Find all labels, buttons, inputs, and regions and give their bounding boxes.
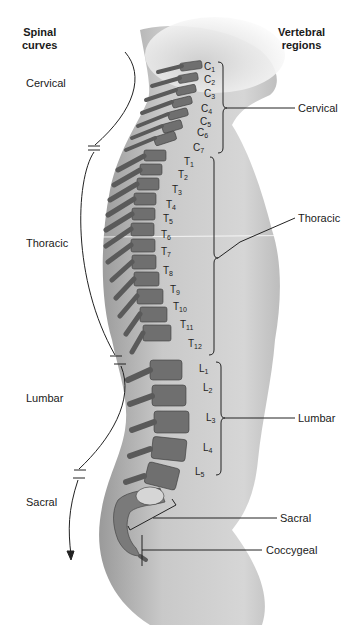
header-vertebral-regions: Vertebral regions — [278, 26, 325, 52]
vertebra-label-t11: T11 — [180, 320, 193, 333]
vertebra-label-l5: L5 — [195, 467, 204, 480]
curve-label-lumbar: Lumbar — [26, 392, 63, 405]
curve-label-cervical: Cervical — [26, 77, 66, 90]
spine-illustration — [0, 0, 355, 638]
curve-label-thoracic: Thoracic — [26, 237, 68, 250]
region-label-sacral: Sacral — [280, 512, 311, 525]
vertebra-label-t7: T7 — [161, 247, 171, 260]
region-label-cervical: Cervical — [298, 102, 338, 115]
region-label-thoracic: Thoracic — [298, 212, 340, 225]
vertebra-label-l3: L3 — [206, 413, 215, 426]
vertebra-label-t9: T9 — [170, 285, 180, 298]
vertebra-label-t8: T8 — [163, 266, 173, 279]
vertebra-label-t5: T5 — [163, 214, 173, 227]
vertebra-label-t3: T3 — [172, 185, 182, 198]
vertebra-label-c6: C6 — [197, 128, 208, 141]
header-spinal-curves: Spinal curves — [22, 26, 57, 52]
vertebra-label-c3: C3 — [204, 89, 215, 102]
vertebra-label-t2: T2 — [178, 170, 188, 183]
vertebra-label-c2: C2 — [204, 75, 215, 88]
vertebra-label-l4: L4 — [203, 443, 212, 456]
region-label-coccygeal: Coccygeal — [266, 544, 317, 557]
vertebra-label-t10: T10 — [173, 302, 187, 315]
vertebra-label-t12: T12 — [188, 339, 202, 352]
vertebra-label-c7: C7 — [193, 143, 204, 156]
curve-label-sacral: Sacral — [26, 496, 57, 509]
vertebra-label-t4: T4 — [166, 200, 176, 213]
vertebra-label-l2: L2 — [203, 383, 212, 396]
vertebra-label-l1: L1 — [199, 364, 208, 377]
region-label-lumbar: Lumbar — [298, 412, 335, 425]
vertebra-label-t1: T1 — [184, 157, 194, 170]
vertebra-label-t6: T6 — [161, 230, 171, 243]
